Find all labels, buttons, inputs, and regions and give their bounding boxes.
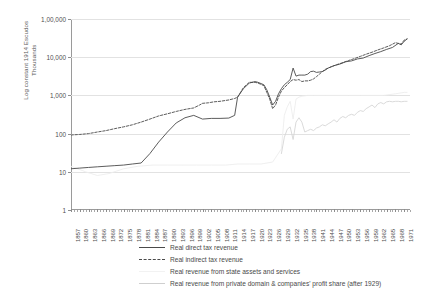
x-minor-tick bbox=[322, 210, 323, 212]
legend-item[interactable]: Real direct tax revenue bbox=[139, 241, 425, 253]
x-minor-tick bbox=[305, 210, 306, 212]
x-minor-tick bbox=[384, 210, 385, 212]
x-tick-mark bbox=[290, 209, 291, 212]
x-minor-tick bbox=[179, 210, 180, 212]
x-minor-tick bbox=[188, 210, 189, 212]
x-minor-tick bbox=[276, 210, 277, 212]
x-minor-tick bbox=[138, 210, 139, 212]
x-minor-tick bbox=[173, 210, 174, 212]
x-minor-tick bbox=[135, 210, 136, 212]
x-minor-tick bbox=[390, 210, 391, 212]
x-minor-tick bbox=[278, 210, 279, 212]
legend-label: Real direct tax revenue bbox=[170, 244, 238, 251]
y-tick-label: 1,000 bbox=[22, 92, 66, 99]
x-tick-mark bbox=[352, 209, 353, 212]
legend-label: Real indirect tax revenue bbox=[170, 256, 243, 263]
series-line bbox=[71, 39, 407, 169]
x-tick-mark bbox=[220, 209, 221, 212]
x-minor-tick bbox=[243, 210, 244, 212]
x-minor-tick bbox=[398, 210, 399, 212]
chart-container: Log constant 1914 Escudos Thousands 1101… bbox=[0, 0, 427, 294]
x-tick-label: 1863 bbox=[91, 229, 98, 242]
x-minor-tick bbox=[241, 210, 242, 212]
x-minor-tick bbox=[191, 210, 192, 212]
x-minor-tick bbox=[127, 210, 128, 212]
x-minor-tick bbox=[357, 210, 358, 212]
x-minor-tick bbox=[147, 210, 148, 212]
x-tick-label: 1860 bbox=[82, 229, 89, 242]
x-tick-label: 1872 bbox=[117, 229, 124, 242]
x-tick-mark bbox=[211, 209, 212, 212]
x-tick-mark bbox=[97, 209, 98, 212]
x-tick-mark bbox=[255, 209, 256, 212]
x-minor-tick bbox=[293, 210, 294, 212]
x-minor-tick bbox=[381, 210, 382, 212]
x-minor-tick bbox=[232, 210, 233, 212]
x-tick-mark bbox=[106, 209, 107, 212]
x-minor-tick bbox=[284, 210, 285, 212]
x-minor-tick bbox=[100, 210, 101, 212]
x-minor-tick bbox=[77, 210, 78, 212]
legend-swatch-icon bbox=[139, 279, 165, 287]
x-tick-mark bbox=[343, 209, 344, 212]
x-minor-tick bbox=[401, 210, 402, 212]
x-tick-mark bbox=[404, 209, 405, 212]
x-tick-mark bbox=[334, 209, 335, 212]
x-tick-mark bbox=[273, 209, 274, 212]
x-minor-tick bbox=[226, 210, 227, 212]
x-minor-tick bbox=[261, 210, 262, 212]
legend-item[interactable]: Real revenue from private domain & compa… bbox=[139, 277, 425, 289]
legend-item[interactable]: Real indirect tax revenue bbox=[139, 253, 425, 265]
x-minor-tick bbox=[363, 210, 364, 212]
x-minor-tick bbox=[129, 210, 130, 212]
x-minor-tick bbox=[112, 210, 113, 212]
x-tick-mark bbox=[80, 209, 81, 212]
x-minor-tick bbox=[223, 210, 224, 212]
x-minor-tick bbox=[74, 210, 75, 212]
legend-swatch-icon bbox=[139, 267, 165, 275]
x-minor-tick bbox=[118, 210, 119, 212]
x-tick-mark bbox=[360, 209, 361, 212]
x-minor-tick bbox=[410, 210, 411, 212]
x-minor-tick bbox=[328, 210, 329, 212]
legend-label: Real revenue from private domain & compa… bbox=[170, 280, 381, 287]
x-tick-mark bbox=[299, 209, 300, 212]
x-minor-tick bbox=[162, 210, 163, 212]
x-tick-mark bbox=[115, 209, 116, 212]
x-tick-mark bbox=[203, 209, 204, 212]
x-minor-tick bbox=[331, 210, 332, 212]
x-minor-tick bbox=[83, 210, 84, 212]
x-tick-mark bbox=[132, 209, 133, 212]
x-minor-tick bbox=[349, 210, 350, 212]
y-tick-label: 1 bbox=[22, 207, 66, 214]
x-minor-tick bbox=[311, 210, 312, 212]
x-minor-tick bbox=[208, 210, 209, 212]
x-tick-label: 1857 bbox=[74, 229, 81, 242]
x-tick-mark bbox=[141, 209, 142, 212]
x-minor-tick bbox=[91, 210, 92, 212]
x-minor-tick bbox=[340, 210, 341, 212]
y-axis-tick-labels: 1101001,00010,0001,00,000 bbox=[18, 0, 66, 294]
y-tick-label: 10 bbox=[22, 168, 66, 175]
x-minor-tick bbox=[302, 210, 303, 212]
x-tick-mark bbox=[150, 209, 151, 212]
x-minor-tick bbox=[372, 210, 373, 212]
x-tick-mark bbox=[176, 209, 177, 212]
x-tick-mark bbox=[308, 209, 309, 212]
legend-label: Real revenue from state assets and servi… bbox=[170, 268, 300, 275]
x-minor-tick bbox=[270, 210, 271, 212]
plot-area bbox=[71, 19, 410, 210]
x-minor-tick bbox=[217, 210, 218, 212]
x-tick-mark bbox=[89, 209, 90, 212]
x-tick-mark bbox=[71, 209, 72, 212]
x-minor-tick bbox=[366, 210, 367, 212]
x-tick-mark bbox=[194, 209, 195, 212]
chart-legend: Real direct tax revenueReal indirect tax… bbox=[139, 241, 425, 291]
x-minor-tick bbox=[214, 210, 215, 212]
legend-item[interactable]: Real revenue from state assets and servi… bbox=[139, 265, 425, 277]
x-minor-tick bbox=[182, 210, 183, 212]
x-minor-tick bbox=[287, 210, 288, 212]
x-minor-tick bbox=[346, 210, 347, 212]
x-tick-mark bbox=[316, 209, 317, 212]
x-tick-mark bbox=[185, 209, 186, 212]
